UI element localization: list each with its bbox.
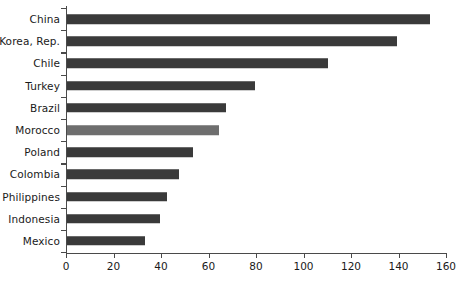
x-tick-label: 20 [107,260,120,272]
y-tick-mark [61,141,66,142]
x-tick-mark [256,253,257,258]
bar-row: Colombia [0,163,459,185]
category-label: Indonesia [8,213,60,225]
bar [67,214,160,224]
x-axis-ticks: 020406080100120140160 [0,253,459,283]
bar [67,103,226,113]
bar-row: Turkey [0,75,459,97]
bar-row: Poland [0,141,459,163]
category-label: Colombia [10,168,60,180]
y-tick-mark [61,75,66,76]
x-tick-label: 140 [388,260,408,272]
x-tick-label: 80 [249,260,262,272]
x-tick-mark [66,253,67,258]
bar-chart: ChinaKorea, Rep.ChileTurkeyBrazilMorocco… [0,0,459,287]
category-label: Chile [33,57,60,69]
x-tick-mark [351,253,352,258]
plot-area: ChinaKorea, Rep.ChileTurkeyBrazilMorocco… [0,0,459,287]
y-tick-mark [61,186,66,187]
x-tick-mark [399,253,400,258]
bar-row: China [0,8,459,30]
x-tick-mark [304,253,305,258]
category-label: Korea, Rep. [0,35,60,47]
bar [67,37,397,47]
bar-rows: ChinaKorea, Rep.ChileTurkeyBrazilMorocco… [0,8,459,252]
x-tick-label: 0 [63,260,70,272]
bar [67,59,328,69]
x-tick-label: 160 [436,260,456,272]
bar [67,170,179,180]
bar-row: Philippines [0,186,459,208]
x-tick-label: 40 [154,260,167,272]
category-label: Poland [24,146,60,158]
x-tick-label: 100 [293,260,313,272]
y-tick-mark [61,119,66,120]
bar-row: Morocco [0,119,459,141]
category-label: Turkey [25,80,60,92]
category-label: Brazil [30,102,60,114]
y-tick-mark [61,52,66,53]
x-tick-label: 60 [202,260,215,272]
x-tick-mark [209,253,210,258]
x-tick-mark [114,253,115,258]
x-tick-label: 120 [341,260,361,272]
category-label: China [30,13,61,25]
y-tick-mark [61,97,66,98]
y-tick-mark [61,163,66,164]
bar [67,236,145,246]
x-tick-mark [161,253,162,258]
bar [67,147,193,157]
bar [67,81,255,91]
bar-row: Indonesia [0,208,459,230]
bar [67,125,219,135]
bar-row: Chile [0,52,459,74]
bar [67,192,167,202]
bar [67,14,430,24]
y-tick-mark [61,230,66,231]
x-tick-mark [446,253,447,258]
bar-row: Korea, Rep. [0,30,459,52]
category-label: Mexico [23,235,60,247]
category-label: Morocco [15,124,60,136]
y-tick-mark [61,208,66,209]
category-label: Philippines [2,191,60,203]
y-tick-mark [61,30,66,31]
bar-row: Mexico [0,230,459,252]
y-tick-mark [61,8,66,9]
bar-row: Brazil [0,97,459,119]
